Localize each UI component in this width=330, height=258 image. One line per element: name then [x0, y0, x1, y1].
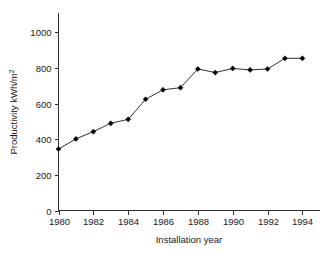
- data-point: [73, 136, 78, 141]
- x-axis-tick-labels: 19801982198419861988199019921994: [49, 216, 313, 227]
- data-point: [213, 70, 218, 75]
- y-tick-label: 600: [36, 99, 52, 110]
- data-point: [248, 67, 253, 72]
- data-point: [265, 66, 270, 71]
- data-point: [108, 121, 113, 126]
- x-tick-label: 1984: [118, 216, 139, 227]
- x-tick-label: 1992: [258, 216, 279, 227]
- x-tick-label: 1994: [292, 216, 313, 227]
- x-tick-label: 1982: [83, 216, 104, 227]
- x-axis-ticks: [60, 211, 303, 215]
- y-axis-tick-labels: 02004006008001000: [30, 27, 51, 217]
- line-chart: 02004006008001000 1980198219841986198819…: [0, 0, 330, 258]
- x-tick-label: 1990: [223, 216, 244, 227]
- y-tick-label: 1000: [30, 27, 51, 38]
- data-point: [91, 129, 96, 134]
- data-point: [56, 146, 61, 151]
- data-series-markers: [56, 56, 305, 152]
- x-axis-title: Installation year: [156, 234, 223, 245]
- y-axis-ticks: [55, 33, 59, 212]
- y-tick-label: 200: [36, 170, 52, 181]
- y-tick-label: 800: [36, 63, 52, 74]
- y-axis-title-text: Productivity kWh/m: [8, 73, 19, 154]
- data-point: [300, 56, 305, 61]
- x-tick-label: 1980: [49, 216, 70, 227]
- figure-container: 02004006008001000 1980198219841986198819…: [0, 0, 330, 258]
- y-axis-title: Productivity kWh/m2: [8, 69, 19, 154]
- svg-text:Productivity kWh/m2: Productivity kWh/m2: [8, 69, 19, 154]
- x-tick-label: 1988: [188, 216, 209, 227]
- data-point: [160, 87, 165, 92]
- x-tick-label: 1986: [153, 216, 174, 227]
- y-axis-title-superscript: 2: [8, 69, 15, 73]
- data-point: [282, 56, 287, 61]
- y-tick-label: 400: [36, 134, 52, 145]
- data-series-line: [59, 58, 303, 149]
- data-point: [230, 66, 235, 71]
